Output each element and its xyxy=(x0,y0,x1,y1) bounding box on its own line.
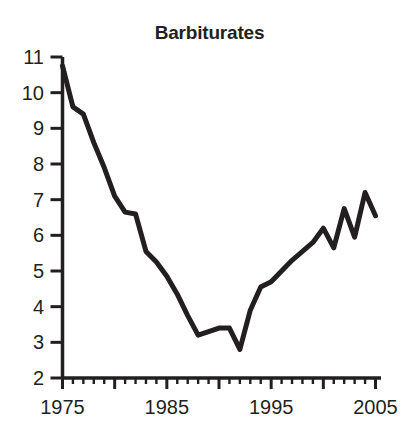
y-axis-tick-label: 11 xyxy=(23,46,44,68)
y-axis-tick-label: 7 xyxy=(33,189,44,211)
y-axis-ticks xyxy=(51,57,63,378)
y-axis-tick-label: 5 xyxy=(33,260,44,282)
x-axis-tick-label: 1975 xyxy=(40,396,85,418)
y-axis-tick-labels: 234567891011 xyxy=(22,46,44,389)
chart-figure: Barbiturates 234567891011 19751985199520… xyxy=(0,0,419,446)
y-axis-tick-label: 2 xyxy=(33,367,44,389)
y-axis-tick-label: 4 xyxy=(33,296,44,318)
data-series-line xyxy=(63,66,376,350)
x-axis-tick-labels: 1975198519952005 xyxy=(40,396,398,418)
y-axis-tick-label: 8 xyxy=(33,153,44,175)
x-axis-tick-label: 1985 xyxy=(145,396,190,418)
line-chart-plot: 234567891011 1975198519952005 xyxy=(0,0,419,446)
y-axis-tick-label: 3 xyxy=(33,331,44,353)
x-axis-tick-label: 1995 xyxy=(249,396,294,418)
x-axis-tick-label: 2005 xyxy=(353,396,398,418)
y-axis-tick-label: 9 xyxy=(33,117,44,139)
y-axis-tick-label: 10 xyxy=(22,82,44,104)
y-axis-tick-label: 6 xyxy=(33,224,44,246)
